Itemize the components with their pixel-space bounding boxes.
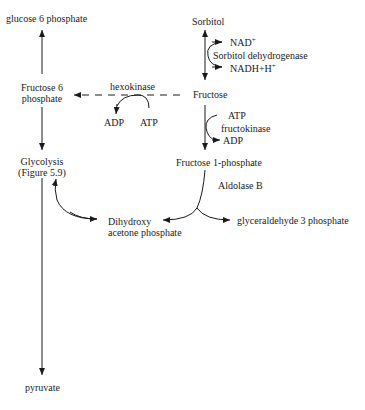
f6p-line1: Fructose 6 [14, 82, 70, 93]
label-dhap: Dihydroxy acetone phosphate [108, 216, 182, 238]
glycolysis-line2: (Figure 5.9) [10, 167, 74, 178]
label-pyruvate: pyruvate [25, 382, 60, 393]
label-glycolysis: Glycolysis (Figure 5.9) [10, 156, 74, 178]
label-glucose-6-phosphate: glucose 6 phosphate [6, 13, 87, 24]
label-hexokinase: hexokinase [110, 81, 155, 92]
nad-text: NAD [230, 37, 252, 48]
nadh-superscript: + [272, 62, 276, 70]
pathway-arrows [0, 0, 365, 410]
fructokinase-cofactor-curve [206, 115, 217, 140]
glycolysis-line1: Glycolysis [10, 156, 74, 167]
label-fk-atp: ATP [228, 110, 246, 121]
label-sorbitol-dehydrogenase: Sorbitol dehydrogenase [213, 50, 308, 61]
label-hk-adp: ADP [104, 117, 124, 128]
nad-superscript: + [252, 36, 256, 44]
dhap-line1: Dihydroxy [108, 216, 182, 227]
label-hk-atp: ATP [140, 117, 158, 128]
arrow-hk-adp [116, 104, 117, 114]
label-fk-adp: ADP [223, 135, 243, 146]
label-fructose: Fructose [193, 89, 227, 100]
dhap-line2: acetone phosphate [108, 227, 182, 238]
label-nadh: NADH+H+ [230, 63, 276, 74]
hexokinase-cofactor-curve [117, 95, 149, 108]
arrow-dhap-to-glycolysis [55, 179, 97, 219]
f6p-line2: phosphate [14, 93, 70, 104]
label-fructose-6-phosphate: Fructose 6 phosphate [14, 82, 70, 104]
arrow-to-g3p [197, 208, 230, 220]
nadh-text: NADH+H [230, 63, 272, 74]
label-aldolase-b: Aldolase B [218, 180, 263, 191]
aldolase-stem [197, 170, 205, 208]
label-nad: NAD+ [230, 37, 256, 48]
label-glyceraldehyde-3-phosphate: glyceraldehyde 3 phosphate [237, 215, 349, 226]
label-fructose-1-phosphate: Fructose 1-phosphate [176, 157, 262, 168]
label-fructokinase: fructokinase [221, 123, 270, 134]
label-sorbitol: Sorbitol [192, 16, 224, 27]
